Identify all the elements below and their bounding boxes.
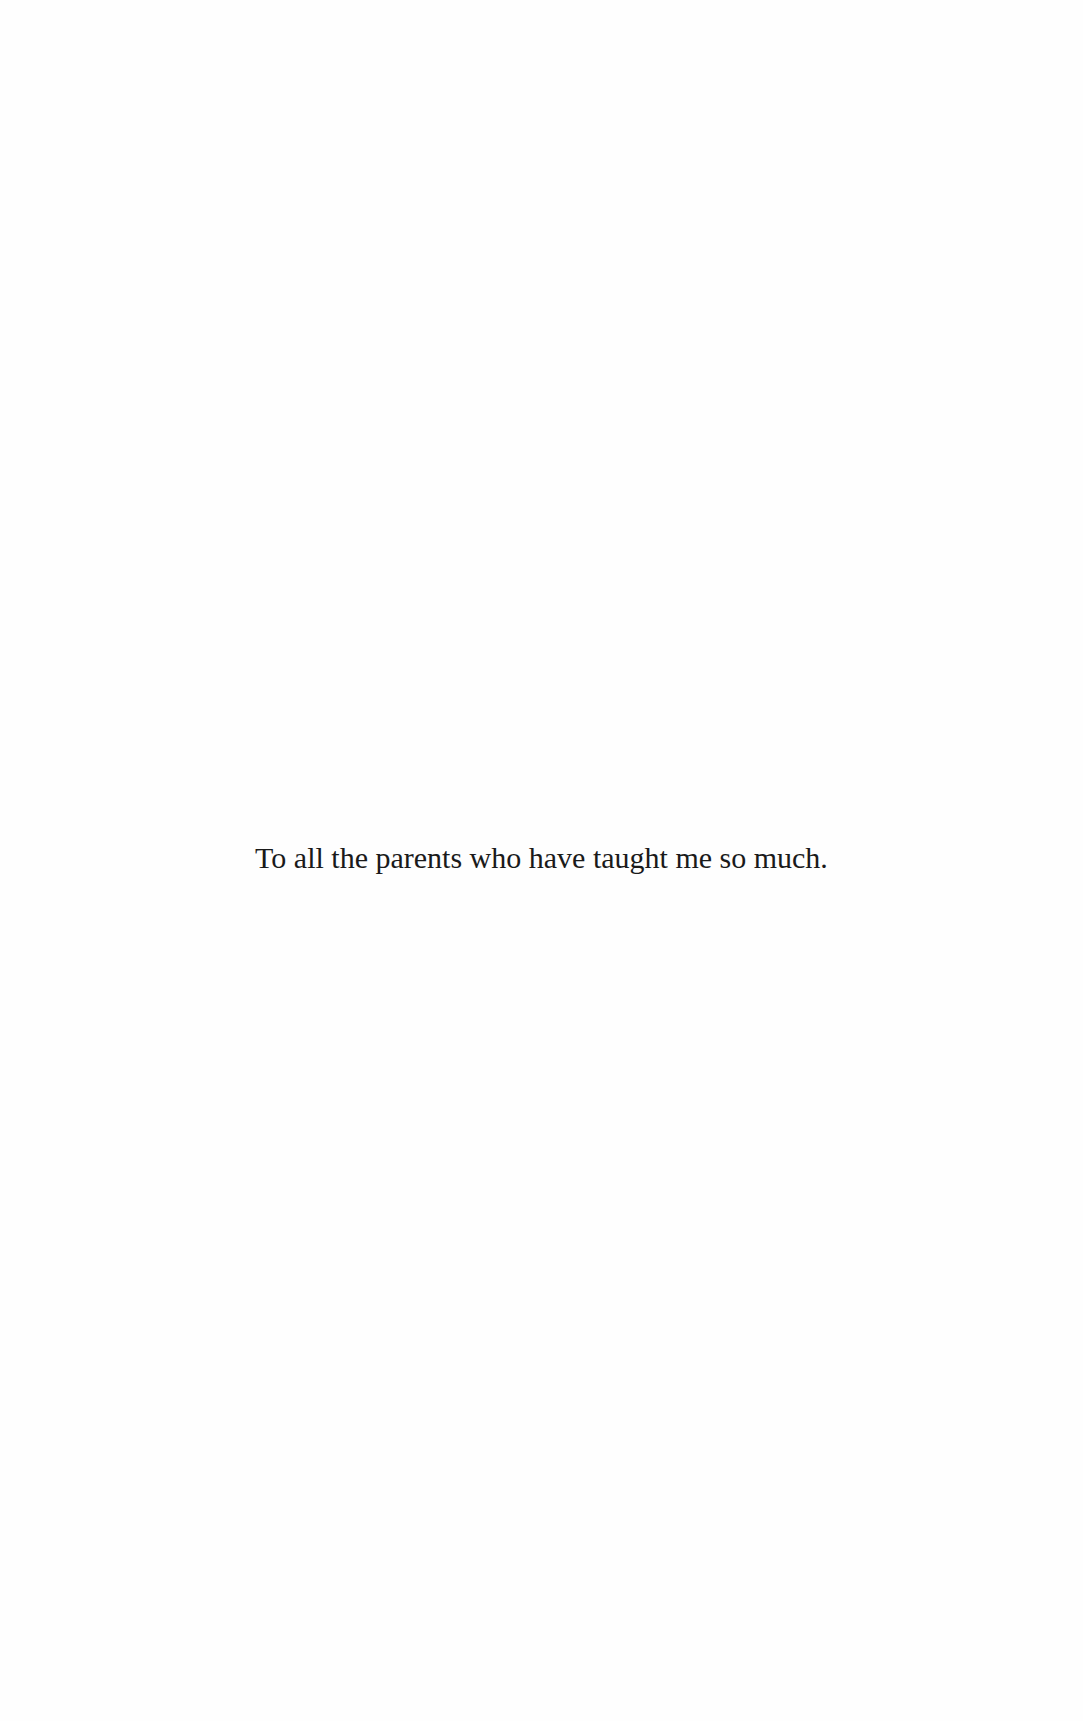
dedication-text: To all the parents who have taught me so… <box>0 838 1083 878</box>
dedication-page: To all the parents who have taught me so… <box>0 0 1083 1721</box>
